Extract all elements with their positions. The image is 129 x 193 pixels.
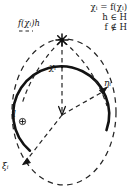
chi-point xyxy=(61,66,63,68)
apex-left-dashed-line xyxy=(22,42,60,104)
label-l-circled-plus: l xyxy=(13,110,16,119)
figure-canvas: χᵢ = f(χᵢ) h ∈ H f ∉ H f(χᵢ)h χᵢ ηᵢ l ξᵢ xyxy=(0,0,129,193)
label-eta-right: ηᵢ xyxy=(104,79,111,88)
formula-block: χᵢ = f(χᵢ) h ∈ H f ∉ H xyxy=(91,2,127,33)
xi-arrowhead xyxy=(23,158,31,165)
chord-center-to-eta xyxy=(62,91,104,115)
label-xi-bottom-left: ξᵢ xyxy=(2,162,9,171)
apex-point xyxy=(60,38,64,42)
formula-line-3: f ∉ H xyxy=(91,22,127,32)
solid-arc xyxy=(13,66,109,150)
formula-line-2: h ∈ H xyxy=(91,12,127,22)
circled-plus-icon xyxy=(19,118,25,124)
label-apex: f(χᵢ)h xyxy=(18,19,40,28)
chord-center-to-xi xyxy=(26,115,62,161)
label-chi-top: χᵢ xyxy=(49,63,56,72)
formula-line-1: χᵢ = f(χᵢ) xyxy=(91,2,127,12)
